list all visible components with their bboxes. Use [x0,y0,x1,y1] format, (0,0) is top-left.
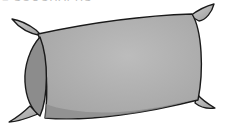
ear-top-left [12,19,42,36]
pillow-body [38,14,201,119]
pillow-icon [0,0,225,135]
pillow-side-face [25,37,46,116]
